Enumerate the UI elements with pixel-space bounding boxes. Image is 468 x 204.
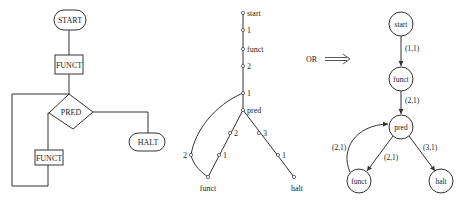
diagram-canvas: START FUNCT PRED FUNCT HALT start 1 bbox=[0, 0, 468, 204]
tree-node-c1 bbox=[217, 153, 220, 156]
graph-label-start: start bbox=[395, 20, 409, 29]
tree-node-start bbox=[241, 11, 244, 14]
tree-label-halt-leaf: halt bbox=[291, 184, 304, 193]
graph-label-funct-bottom: funct bbox=[351, 177, 367, 186]
tree-label-a1: 1 bbox=[247, 26, 251, 35]
tree-node-pred bbox=[241, 108, 244, 111]
edge-pred-halt bbox=[409, 136, 435, 171]
tree-label-pred: pred bbox=[247, 106, 261, 115]
start-label: START bbox=[58, 16, 82, 25]
tree-node-b1 bbox=[241, 91, 244, 94]
or-separator: OR bbox=[306, 54, 350, 64]
tree-node-a2 bbox=[241, 64, 244, 67]
graph-label-funct-top: funct bbox=[393, 75, 409, 84]
edge-label-start-funct: (1,1) bbox=[405, 44, 420, 53]
halt-label: HALT bbox=[138, 138, 159, 147]
tree-node-funct-leaf bbox=[206, 175, 209, 178]
graph-label-pred: pred bbox=[394, 123, 408, 132]
tree-label-a2: 2 bbox=[247, 62, 251, 71]
or-label: OR bbox=[306, 55, 318, 64]
edge-funct-pred-back bbox=[347, 124, 388, 172]
state-graph: start funct pred funct halt (1,1) (2,1) … bbox=[332, 12, 453, 193]
tree-branch-left bbox=[208, 110, 243, 177]
tree-label-start: start bbox=[247, 9, 262, 18]
flow-line-pred-funct bbox=[48, 113, 49, 150]
tree-label-c1: 1 bbox=[223, 151, 227, 160]
edge-label-pred-funct: (2,1) bbox=[384, 153, 399, 162]
tree-label-d3: 3 bbox=[263, 129, 267, 138]
edge-label-funct-pred: (2,1) bbox=[405, 96, 420, 105]
tree-branch-right bbox=[243, 110, 294, 177]
tree-diagram: start 1 funct 2 1 pred 2 1 3 1 2 funct h… bbox=[183, 9, 304, 193]
tree-node-c2 bbox=[228, 131, 231, 134]
tree-label-c2: 2 bbox=[234, 129, 238, 138]
tree-label-b1: 1 bbox=[247, 89, 251, 98]
edge-label-funct-pred-back: (2,1) bbox=[332, 143, 347, 152]
tree-node-funct bbox=[241, 47, 244, 50]
funct-1-label: FUNCT bbox=[56, 61, 82, 70]
funct-2-label: FUNCT bbox=[36, 154, 62, 163]
flow-line-pred-halt bbox=[93, 112, 148, 133]
edge-label-pred-halt: (3,1) bbox=[423, 143, 438, 152]
tree-label-funct-leaf: funct bbox=[200, 184, 217, 193]
tree-label-d1: 1 bbox=[282, 151, 286, 160]
tree-node-e2 bbox=[189, 153, 192, 156]
tree-node-d1 bbox=[276, 153, 279, 156]
tree-label-funct: funct bbox=[247, 45, 264, 54]
tree-node-d3 bbox=[257, 131, 260, 134]
flowchart: START FUNCT PRED FUNCT HALT bbox=[12, 10, 165, 186]
pred-label: PRED bbox=[61, 108, 82, 117]
graph-label-halt: halt bbox=[435, 177, 447, 186]
tree-node-halt-leaf bbox=[292, 175, 295, 178]
double-right-arrow-icon bbox=[325, 54, 350, 64]
tree-node-a1 bbox=[241, 28, 244, 31]
tree-label-e2: 2 bbox=[183, 151, 187, 160]
